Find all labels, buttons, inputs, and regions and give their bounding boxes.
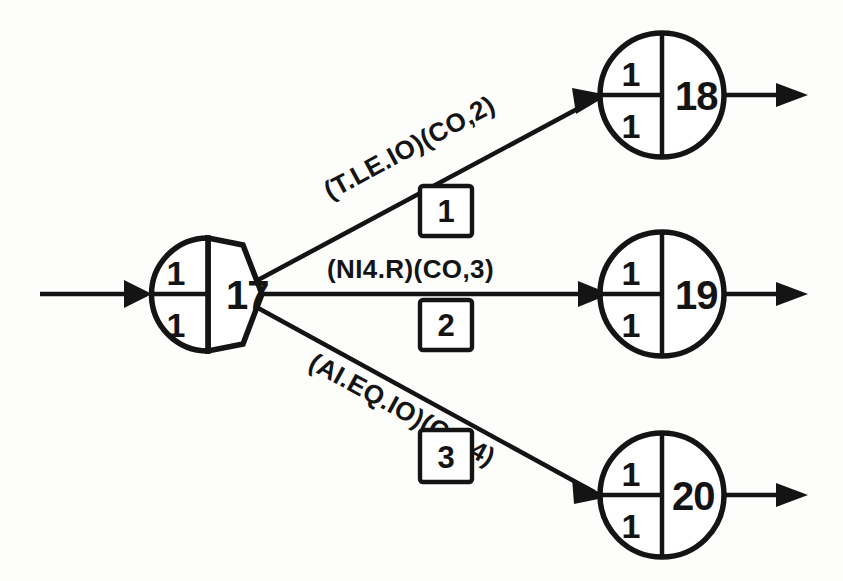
node-17-tick-bottom: 1 — [167, 306, 186, 344]
edge-box-1[interactable]: 1 — [420, 186, 472, 236]
node-17[interactable]: 1 1 17 — [152, 237, 269, 352]
output-arrow-18 — [724, 83, 808, 107]
node-20-tick-bottom: 1 — [622, 507, 641, 545]
node-20[interactable]: 1 1 20 — [600, 433, 724, 557]
node-18-tick-top: 1 — [622, 55, 641, 93]
edge-box-3-label: 3 — [437, 440, 454, 475]
node-19-tick-top: 1 — [622, 254, 641, 292]
node-17-label: 17 — [226, 273, 269, 317]
input-arrow — [40, 280, 152, 308]
edge-box-3[interactable]: 3 — [420, 430, 472, 482]
node-19-label: 19 — [675, 273, 718, 317]
edge-label-17-19: (NI4.R)(CO,3) — [327, 254, 494, 284]
edge-box-2[interactable]: 2 — [420, 300, 472, 350]
node-19[interactable]: 1 1 19 — [600, 232, 724, 356]
node-19-tick-bottom: 1 — [622, 306, 641, 344]
output-arrow-19 — [724, 282, 808, 306]
diagram-canvas: 1 1 17 1 1 18 1 1 19 1 1 20 — [0, 0, 843, 581]
node-20-label: 20 — [672, 474, 715, 518]
output-arrow-20 — [724, 483, 808, 507]
diagram-svg: 1 1 17 1 1 18 1 1 19 1 1 20 — [0, 0, 843, 581]
node-17-tick-top: 1 — [167, 254, 186, 292]
node-18-label: 18 — [675, 74, 718, 118]
edge-box-1-label: 1 — [437, 194, 454, 229]
node-18[interactable]: 1 1 18 — [600, 33, 724, 157]
edge-box-2-label: 2 — [437, 308, 454, 343]
node-20-tick-top: 1 — [622, 455, 641, 493]
node-18-tick-bottom: 1 — [622, 107, 641, 145]
